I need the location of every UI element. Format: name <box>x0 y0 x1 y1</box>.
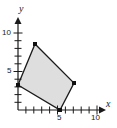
y-tick-label-5: 5 <box>7 67 11 75</box>
x-axis-label: x <box>106 99 110 109</box>
vertex-marker <box>33 42 37 46</box>
coordinate-plane-figure: 10 5 5 10 x y <box>0 0 117 128</box>
x-tick-label-5: 5 <box>57 114 61 122</box>
x-tick-label-10: 10 <box>91 114 100 122</box>
vertex-marker <box>58 108 62 112</box>
vertex-marker <box>16 83 20 87</box>
plot-svg <box>0 0 117 128</box>
y-axis-label: y <box>19 4 23 14</box>
quadrilateral-shape <box>18 44 74 110</box>
y-axis <box>14 17 23 110</box>
vertex-marker <box>72 81 76 85</box>
y-tick-label-10: 10 <box>2 29 11 37</box>
